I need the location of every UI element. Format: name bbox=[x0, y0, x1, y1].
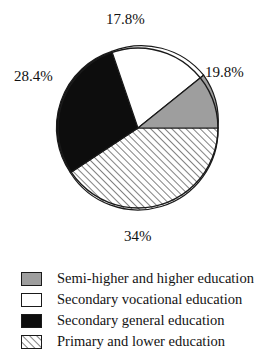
pie-chart-graphic bbox=[0, 0, 275, 262]
black-swatch-icon bbox=[21, 314, 42, 328]
pie-value-label-primary-and-lower-education: 34% bbox=[124, 228, 152, 245]
pie-value-label-semi-higher-and-higher-education: 19.8% bbox=[205, 64, 244, 81]
legend-item-secondary-vocational-education: Secondary vocational education bbox=[21, 289, 242, 310]
legend-item-semi-higher-and-higher-education: Semi-higher and higher education bbox=[21, 268, 254, 289]
legend-item-primary-and-lower-education: Primary and lower education bbox=[21, 331, 225, 352]
chart-legend: Semi-higher and higher education Seconda… bbox=[0, 266, 275, 361]
pie-value-label-secondary-vocational-education: 17.8% bbox=[106, 11, 145, 28]
legend-item-secondary-general-education: Secondary general education bbox=[21, 310, 224, 331]
pie-value-label-secondary-general-education: 28.4% bbox=[14, 68, 53, 85]
gray-swatch-icon bbox=[21, 272, 42, 286]
legend-item-label: Semi-higher and higher education bbox=[57, 271, 254, 286]
legend-item-label: Secondary general education bbox=[57, 313, 224, 328]
legend-item-label: Secondary vocational education bbox=[57, 292, 242, 307]
hatch-swatch-icon bbox=[21, 335, 42, 349]
legend-item-label: Primary and lower education bbox=[57, 334, 225, 349]
pie-chart-area: 17.8% 19.8% 28.4% 34% bbox=[0, 0, 275, 262]
white-swatch-icon bbox=[21, 293, 42, 307]
